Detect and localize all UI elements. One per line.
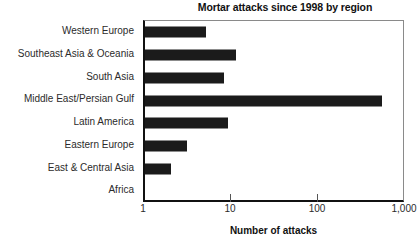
y-axis-label: East & Central Asia: [0, 157, 138, 180]
x-tick-label: 1: [120, 203, 166, 214]
bar-row: [145, 44, 403, 67]
bar: [145, 118, 228, 129]
y-axis-label: Africa: [0, 179, 138, 202]
chart-title-text: Mortar attacks since 1998 by region: [198, 1, 373, 13]
bar-row: [145, 158, 403, 181]
bar: [145, 163, 171, 174]
bar: [145, 72, 224, 83]
y-axis-label: South Asia: [0, 66, 138, 89]
bar-row: [145, 89, 403, 112]
y-axis-label: Southeast Asia & Oceania: [0, 43, 138, 66]
x-tick-label: 1,000: [381, 203, 418, 214]
bar-row: [145, 135, 403, 158]
x-tick-mark: [317, 194, 318, 202]
y-axis-category-labels: Western Europe Southeast Asia & Oceania …: [0, 20, 138, 202]
bar-row: [145, 180, 403, 203]
bar: [145, 95, 382, 106]
chart-title: Mortar attacks since 1998 by region: [0, 1, 418, 13]
x-axis-title: Number of attacks: [143, 225, 404, 236]
bar-row: [145, 112, 403, 135]
y-axis-label: Eastern Europe: [0, 134, 138, 157]
x-tick-label: 100: [294, 203, 340, 214]
chart-figure: Mortar attacks since 1998 by region West…: [0, 0, 418, 244]
bar: [145, 27, 206, 38]
bar: [145, 141, 187, 152]
plot-area: [143, 20, 404, 202]
y-axis-label: Western Europe: [0, 20, 138, 43]
bar-row: [145, 21, 403, 44]
x-tick-mark: [230, 194, 231, 202]
bar: [145, 50, 236, 61]
bar-row: [145, 67, 403, 90]
y-axis-label: Middle East/Persian Gulf: [0, 88, 138, 111]
x-tick-label: 10: [207, 203, 253, 214]
y-axis-label: Latin America: [0, 111, 138, 134]
